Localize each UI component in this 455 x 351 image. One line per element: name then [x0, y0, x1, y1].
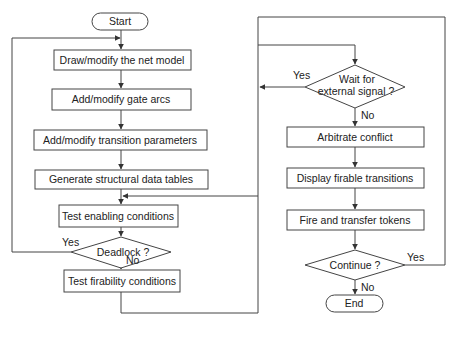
- node-display-firable: Display firable transitions: [287, 168, 424, 188]
- end-label: End: [345, 297, 364, 309]
- draw-model-label: Draw/modify the net model: [60, 54, 185, 66]
- node-start: Start: [92, 13, 148, 30]
- node-wait-signal: Wait for external signal ?: [305, 65, 405, 108]
- continue-yes-label: Yes: [407, 251, 424, 263]
- node-continue: Continue ?: [305, 250, 405, 280]
- node-transition-params: Add/modify transition parameters: [34, 130, 207, 150]
- wait-yes-label: Yes: [293, 69, 310, 81]
- fire-transfer-label: Fire and transfer tokens: [300, 214, 411, 226]
- node-test-enabling: Test enabling conditions: [59, 205, 178, 227]
- continue-label: Continue ?: [330, 259, 381, 271]
- data-tables-label: Generate structural data tables: [49, 173, 193, 185]
- continue-no-label: No: [361, 281, 375, 293]
- wait-signal-label-line1: Wait for: [339, 73, 375, 85]
- transition-params-label: Add/modify transition parameters: [43, 134, 197, 146]
- deadlock-label: Deadlock ?: [97, 246, 150, 258]
- display-firable-label: Display firable transitions: [297, 172, 414, 184]
- gate-arcs-label: Add/modify gate arcs: [72, 93, 171, 105]
- deadlock-yes-label: Yes: [62, 236, 79, 248]
- test-firability-label: Test firability conditions: [68, 275, 176, 287]
- arbitrate-label: Arbitrate conflict: [317, 131, 392, 143]
- test-enabling-label: Test enabling conditions: [62, 210, 174, 222]
- node-test-firability: Test firability conditions: [64, 270, 180, 292]
- node-arbitrate: Arbitrate conflict: [287, 127, 424, 147]
- wait-signal-label-line2: external signal ?: [318, 85, 395, 97]
- node-deadlock: Deadlock ?: [71, 237, 171, 268]
- deadlock-no-label: No: [126, 254, 140, 266]
- node-gate-arcs: Add/modify gate arcs: [52, 89, 191, 110]
- edge-into-wait: [258, 45, 355, 64]
- wait-no-label: No: [361, 109, 375, 121]
- node-data-tables: Generate structural data tables: [35, 170, 208, 189]
- node-end: End: [326, 295, 383, 312]
- flowchart-canvas: Start Draw/modify the net model Add/modi…: [0, 0, 455, 351]
- start-label: Start: [109, 15, 131, 27]
- node-draw-model: Draw/modify the net model: [54, 50, 191, 70]
- node-fire-transfer: Fire and transfer tokens: [287, 210, 424, 230]
